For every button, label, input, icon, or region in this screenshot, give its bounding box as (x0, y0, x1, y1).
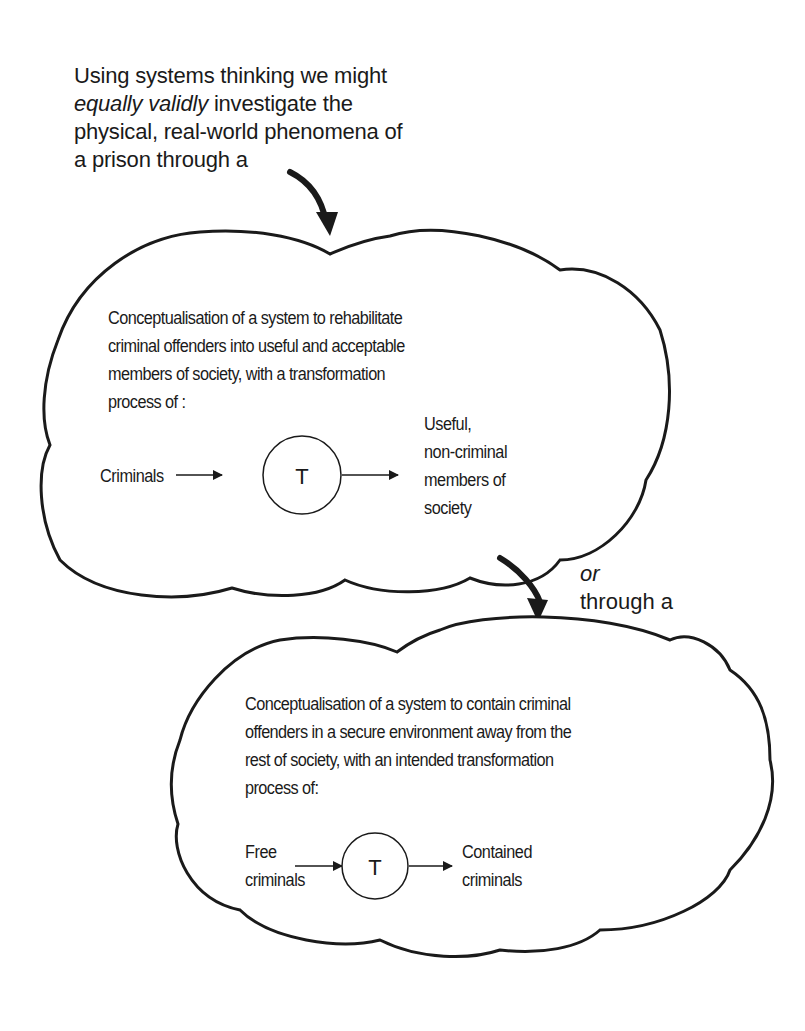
connector-through: through a (580, 588, 673, 616)
description-line: members of society, with a transformatio… (108, 360, 405, 388)
transform-label: T (368, 855, 381, 880)
emphasis-text: equally validly (74, 91, 208, 116)
description-line: offenders in a secure environment away f… (245, 718, 571, 746)
connector-text: or through a (580, 560, 673, 616)
input-line: Free (245, 838, 305, 866)
intro-line: equally validly investigate the (74, 90, 402, 118)
curved-arrow-icon (290, 172, 338, 236)
description-line: criminal offenders into useful and accep… (108, 332, 405, 360)
output-line: criminals (462, 866, 532, 894)
intro-line: physical, real-world phenomena of (74, 118, 402, 146)
description-line: Conceptualisation of a system to rehabil… (108, 304, 405, 332)
output-line: society (424, 494, 507, 522)
connector-or: or (580, 560, 673, 588)
output-line: Contained (462, 838, 532, 866)
cloud-2-output-label: Contained criminals (462, 838, 532, 894)
intro-line-rest: investigate the (208, 91, 353, 116)
description-line: Conceptualisation of a system to contain… (245, 690, 571, 718)
intro-line: Using systems thinking we might (74, 62, 402, 90)
transform-label: T (295, 464, 308, 489)
description-line: process of: (245, 774, 571, 802)
output-line: non-criminal (424, 438, 507, 466)
description-line: process of : (108, 388, 405, 416)
input-line: criminals (245, 866, 305, 894)
output-line: Useful, (424, 410, 507, 438)
cloud-2-description: Conceptualisation of a system to contain… (245, 690, 571, 802)
cloud-2-input-label: Free criminals (245, 838, 305, 894)
intro-line: a prison through a (74, 146, 402, 174)
cloud-1-description: Conceptualisation of a system to rehabil… (108, 304, 405, 416)
intro-text: Using systems thinking we might equally … (74, 62, 402, 174)
output-line: members of (424, 466, 507, 494)
cloud-1-output-label: Useful, non-criminal members of society (424, 410, 507, 522)
cloud-1-input-label: Criminals (100, 462, 164, 490)
description-line: rest of society, with an intended transf… (245, 746, 571, 774)
